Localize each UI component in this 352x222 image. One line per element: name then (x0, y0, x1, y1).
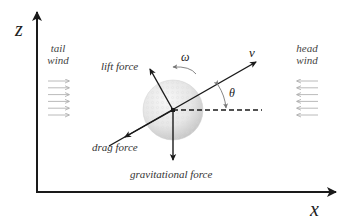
tail-wind-arrows (48, 81, 69, 115)
head-wind-label-line1: head (296, 42, 318, 54)
head-wind-label-line2: wind (296, 54, 318, 66)
tail-wind-label-line2: wind (47, 54, 69, 66)
x-axis-label: x (309, 198, 319, 220)
physics-diagram: z x tail wind head wind v θ lift force ω… (0, 0, 352, 222)
angle-label: θ (229, 86, 235, 100)
spin-label: ω (181, 50, 189, 64)
drag-force-label: drag force (92, 141, 138, 153)
lift-force-label: lift force (101, 60, 138, 72)
head-wind-arrows (297, 81, 318, 115)
tail-wind-label-line1: tail (51, 42, 66, 54)
spin-arc (173, 67, 196, 74)
ball-center-point (171, 108, 175, 112)
velocity-label: v (249, 45, 255, 60)
angle-arc (218, 85, 226, 108)
gravitational-force-label: gravitational force (130, 168, 213, 180)
z-axis-label: z (14, 18, 23, 40)
